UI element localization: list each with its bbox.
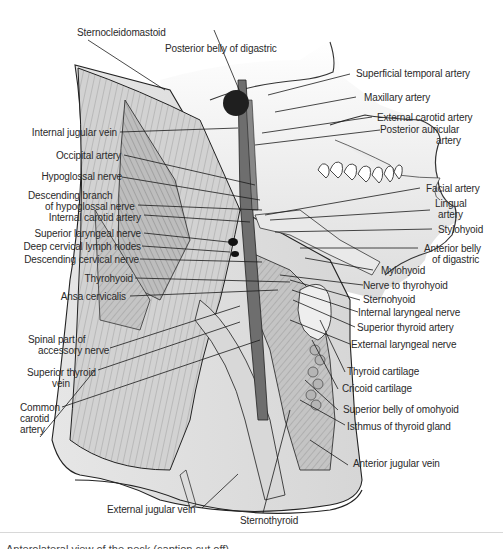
label-internal-laryngeal-nerve: Internal laryngeal nerve <box>358 307 460 319</box>
label-superior-laryngeal-nerve: Superior laryngeal nerve <box>34 228 141 240</box>
label-spinal-accessory-line2: accessory nerve <box>38 345 109 357</box>
mastoid-process <box>223 90 249 116</box>
lymph-node <box>231 251 239 257</box>
label-external-carotid-artery: External carotid artery <box>377 112 473 124</box>
label-internal-carotid-artery: Internal carotid artery <box>49 212 141 224</box>
label-maxillary-artery: Maxillary artery <box>364 92 430 104</box>
label-descending-cervical-nerve: Descending cervical nerve <box>24 254 139 266</box>
label-cricoid-cartilage: Cricoid cartilage <box>342 383 412 395</box>
caption-divider <box>0 532 503 533</box>
lymph-node <box>228 238 238 246</box>
label-superficial-temporal-artery: Superficial temporal artery <box>356 68 470 80</box>
label-anterior-belly-line2: of digastric <box>432 254 479 266</box>
label-lingual-line2: artery <box>438 209 463 221</box>
label-isthmus-thyroid-gland: Isthmus of thyroid gland <box>347 421 451 433</box>
label-facial-artery: Facial artery <box>426 183 480 195</box>
label-superior-belly-omohyoid: Superior belly of omohyoid <box>343 404 459 416</box>
label-occipital-artery: Occipital artery <box>56 150 121 162</box>
label-superior-thyroid-artery: Superior thyroid artery <box>357 322 454 334</box>
label-anterior-jugular-vein: Anterior jugular vein <box>353 458 440 470</box>
label-sternohyoid: Sternohyoid <box>363 294 415 306</box>
label-thyrohyoid: Thyrohyoid <box>85 273 133 285</box>
label-sternothyroid: Sternothyroid <box>240 515 298 527</box>
label-nerve-to-thyrohyoid: Nerve to thyrohyoid <box>363 280 448 292</box>
label-ansa-cervicalis: Ansa cervicalis <box>61 291 126 303</box>
label-hypoglossal-nerve: Hypoglossal nerve <box>41 171 122 183</box>
label-external-laryngeal-nerve: External laryngeal nerve <box>351 339 456 351</box>
label-superior-thyroid-vein-line2: vein <box>52 378 70 390</box>
label-internal-jugular-vein: Internal jugular vein <box>32 127 117 139</box>
label-external-jugular-vein: External jugular vein <box>107 504 196 516</box>
label-posterior-belly-digastric: Posterior belly of digastric <box>165 43 277 55</box>
figure-caption: Anterolateral view of the neck (caption … <box>6 538 229 549</box>
label-deep-cervical-lymph-nodes: Deep cervical lymph nodes <box>23 241 141 253</box>
label-common-carotid-line3: artery <box>20 424 45 436</box>
label-sternocleidomastoid: Sternocleidomastoid <box>77 27 166 39</box>
label-thyroid-cartilage: Thyroid cartilage <box>347 366 419 378</box>
label-stylohyoid: Stylohyoid <box>438 224 483 236</box>
label-posterior-auricular-line2: artery <box>436 135 461 147</box>
label-mylohyoid: Mylohyoid <box>381 265 425 277</box>
